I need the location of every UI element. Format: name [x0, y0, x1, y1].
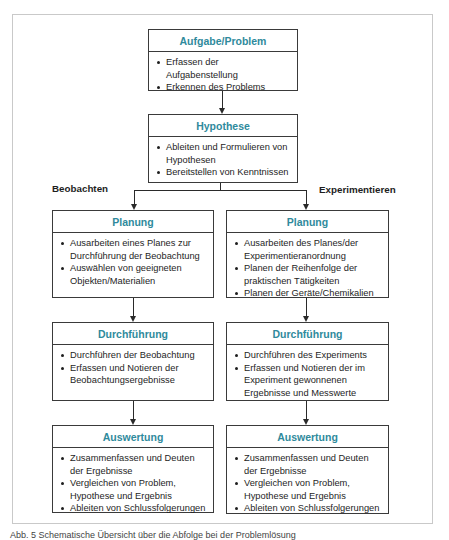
box-right-planning: Planung Ausarbeiten des Planes/der Exper… — [226, 210, 389, 298]
box-left-evaluation-list: Zusammenfassen und Deuten der Ergebnisse… — [53, 448, 213, 519]
connector-line — [220, 183, 221, 190]
box-right-evaluation: Auswertung Zusammenfassen und Deuten der… — [226, 425, 389, 514]
list-item: Ableiten von Schlussfolgerungen — [60, 502, 207, 515]
branch-label-experiment: Experimentieren — [319, 184, 396, 195]
connector-line — [133, 298, 134, 316]
connector-line — [134, 190, 135, 204]
box-hypothesis-title: Hypothese — [149, 115, 297, 137]
list-item: Durchführen der Beobachtung — [60, 349, 207, 362]
list-item: Erfassen und Notieren der Beobachtungser… — [60, 362, 207, 387]
box-problem-list: Erfassen der Aufgabenstellung Erkennen d… — [149, 52, 297, 98]
box-right-planning-title: Planung — [227, 211, 388, 233]
branch-label-observe: Beobachten — [52, 183, 108, 194]
connector-line — [306, 298, 307, 316]
list-item: Vergleichen von Problem, Hypothese und E… — [234, 477, 382, 502]
connector-line — [306, 401, 307, 419]
list-item: Auswählen von geeigneten Objekten/Materi… — [60, 262, 207, 287]
connector-line — [134, 190, 307, 191]
list-item: Erfassen und Notieren der im Experiment … — [234, 362, 382, 400]
box-left-execution: Durchführung Durchführen der Beobachtung… — [52, 322, 214, 401]
connector-line — [222, 91, 223, 108]
list-item: Planen der Geräte/Chemikalien — [234, 287, 382, 300]
list-item: Bereitstellen von Kenntnissen — [156, 166, 291, 179]
list-item: Zusammenfassen und Deuten der Ergebnisse — [60, 452, 207, 477]
list-item: Ableiten und Formulieren von Hypothesen — [156, 141, 291, 166]
box-problem-title: Aufgabe/Problem — [149, 30, 297, 52]
connector-line — [133, 401, 134, 419]
box-left-execution-title: Durchführung — [53, 323, 213, 345]
list-item: Ausarbeiten des Planes/der Experimentier… — [234, 237, 382, 262]
list-item: Erkennen des Problems — [156, 81, 291, 94]
figure-caption: Abb. 5 Schematische Übersicht über die A… — [10, 530, 296, 540]
box-right-evaluation-title: Auswertung — [227, 426, 388, 448]
list-item: Vergleichen von Problem, Hypothese und E… — [60, 477, 207, 502]
box-right-execution-list: Durchführen des Experiments Erfassen und… — [227, 345, 388, 403]
box-problem: Aufgabe/Problem Erfassen der Aufgabenste… — [148, 29, 298, 91]
list-item: Ableiten von Schlussfolgerungen — [234, 502, 382, 515]
box-left-evaluation-title: Auswertung — [53, 426, 213, 448]
box-hypothesis-list: Ableiten und Formulieren von Hypothesen … — [149, 137, 297, 183]
list-item: Erfassen der Aufgabenstellung — [156, 56, 291, 81]
list-item: Durchführen des Experiments — [234, 349, 382, 362]
box-left-evaluation: Auswertung Zusammenfassen und Deuten der… — [52, 425, 214, 513]
connector-line — [306, 190, 307, 204]
box-left-planning-list: Ausarbeiten eines Planes zur Durchführun… — [53, 233, 213, 291]
box-left-execution-list: Durchführen der Beobachtung Erfassen und… — [53, 345, 213, 391]
box-left-planning: Planung Ausarbeiten eines Planes zur Dur… — [52, 210, 214, 298]
box-right-execution: Durchführung Durchführen des Experiments… — [226, 322, 389, 401]
box-right-evaluation-list: Zusammenfassen und Deuten der Ergebnisse… — [227, 448, 388, 519]
box-left-planning-title: Planung — [53, 211, 213, 233]
list-item: Planen der Reihenfolge der praktischen T… — [234, 262, 382, 287]
box-right-execution-title: Durchführung — [227, 323, 388, 345]
box-hypothesis: Hypothese Ableiten und Formulieren von H… — [148, 114, 298, 183]
list-item: Zusammenfassen und Deuten der Ergebnisse — [234, 452, 382, 477]
list-item: Ausarbeiten eines Planes zur Durchführun… — [60, 237, 207, 262]
box-right-planning-list: Ausarbeiten des Planes/der Experimentier… — [227, 233, 388, 304]
